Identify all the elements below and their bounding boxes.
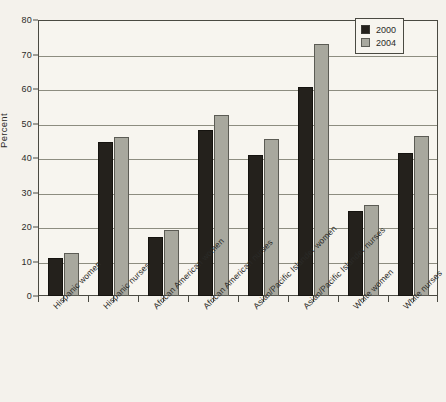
bar-2000 [398,153,413,296]
y-tick-label: 60 [22,84,32,94]
bar-group [48,20,79,296]
bar-2004 [414,136,429,296]
bar-2004 [114,137,129,296]
legend-item-2000: 2000 [361,23,396,36]
bar-2004 [314,44,329,296]
legend-swatch-2004 [361,38,370,47]
y-tick-label: 20 [22,222,32,232]
bar-2000 [98,142,113,296]
y-tick-label: 10 [22,257,32,267]
bar-2004 [214,115,229,296]
bar-2000 [198,130,213,296]
legend-swatch-2000 [361,25,370,34]
legend-label-2000: 2000 [376,25,396,35]
bar-group [398,20,429,296]
bar-2000 [248,155,263,296]
y-tick-label: 70 [22,50,32,60]
legend: 2000 2004 [355,18,404,54]
y-tick-label: 30 [22,188,32,198]
bar-group [98,20,129,296]
legend-label-2004: 2004 [376,38,396,48]
y-tick-label: 50 [22,119,32,129]
legend-item-2004: 2004 [361,36,396,49]
bar-2004 [264,139,279,296]
bar-chart: Percent 01020304050607080 Hispanic women… [0,0,446,402]
bar-2000 [48,258,63,296]
x-axis-labels: Hispanic womenHispanic nursesAfrican Ame… [0,296,446,402]
y-tick-label: 80 [22,15,32,25]
y-tick-label: 40 [22,153,32,163]
y-axis: 01020304050607080 [0,0,38,316]
bar-group [148,20,179,296]
bars-layer [38,20,438,296]
